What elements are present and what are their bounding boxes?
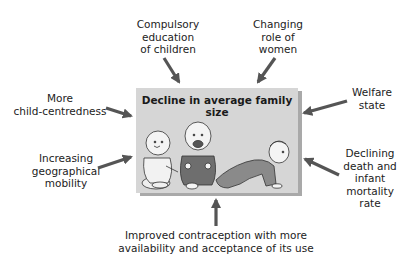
arrow-changing-role-women-icon — [258, 58, 275, 82]
arrow-declining-mortality-icon — [305, 159, 339, 175]
arrow-compulsory-education-icon — [164, 58, 179, 82]
arrows-layer — [0, 0, 406, 264]
arrow-welfare-state-icon — [304, 101, 347, 113]
arrow-child-centredness-icon — [106, 108, 131, 116]
arrow-geographical-mobility-icon — [98, 157, 131, 168]
